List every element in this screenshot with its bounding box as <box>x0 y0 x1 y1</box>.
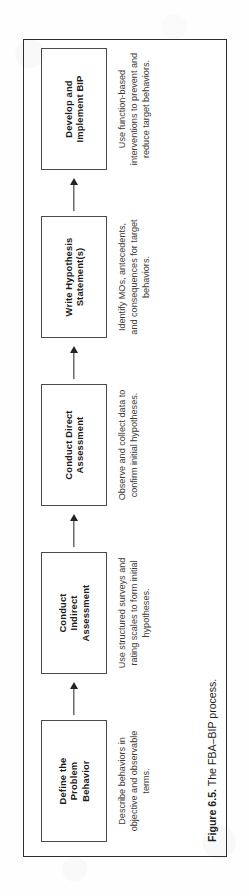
step-title: Conduct Direct Assessment <box>62 410 85 479</box>
arrow-right-icon-1 <box>65 674 83 720</box>
arrow-head <box>70 682 78 689</box>
rotated-figure-stage: Define the Problem Behavior Conduct Indi… <box>23 39 227 857</box>
step-description-write-hypothesis-statements: Identify MOs, antecedents, and consequen… <box>116 216 152 338</box>
step-title: Write Hypothesis Statement(s) <box>62 238 85 317</box>
arrow-head <box>70 346 78 353</box>
arrow-head <box>70 178 78 185</box>
step-box-write-hypothesis-statements[interactable]: Write Hypothesis Statement(s) <box>41 216 107 338</box>
step-title: Define the Problem Behavior <box>56 758 90 805</box>
figure-caption: Figure 6.5. The FBA–BIP process. <box>206 62 219 842</box>
step-box-define-problem-behavior[interactable]: Define the Problem Behavior <box>41 720 107 842</box>
step-title: Develop and Implement BIP <box>62 75 85 142</box>
step-box-conduct-indirect-assessment[interactable]: Conduct Indirect Assessment <box>41 552 107 674</box>
step-description-conduct-direct-assessment: Observe and collect data to confirm init… <box>116 384 140 506</box>
flowchart-description-row: Describe behaviors in objective and obse… <box>116 124 178 842</box>
step-box-conduct-direct-assessment[interactable]: Conduct Direct Assessment <box>41 384 107 506</box>
figure-caption-label: Figure 6.5. <box>206 789 218 842</box>
step-description-conduct-indirect-assessment: Use structured surveys and rating scales… <box>116 552 152 674</box>
step-description-develop-implement-bip: Use function-based interventions to prev… <box>116 48 152 170</box>
arrow-head <box>70 514 78 521</box>
step-title: Conduct Indirect Assessment <box>56 585 90 642</box>
figure-border-frame: Define the Problem Behavior Conduct Indi… <box>23 39 227 857</box>
flowchart-step-row: Define the Problem Behavior Conduct Indi… <box>40 124 108 842</box>
arrow-right-icon-4 <box>65 170 83 216</box>
step-description-define-problem-behavior: Describe behaviors in objective and obse… <box>116 720 152 842</box>
arrow-right-icon-3 <box>65 338 83 384</box>
arrow-right-icon-2 <box>65 506 83 552</box>
figure-caption-text: The FBA–BIP process. <box>206 679 218 789</box>
step-box-develop-implement-bip[interactable]: Develop and Implement BIP <box>41 48 107 170</box>
